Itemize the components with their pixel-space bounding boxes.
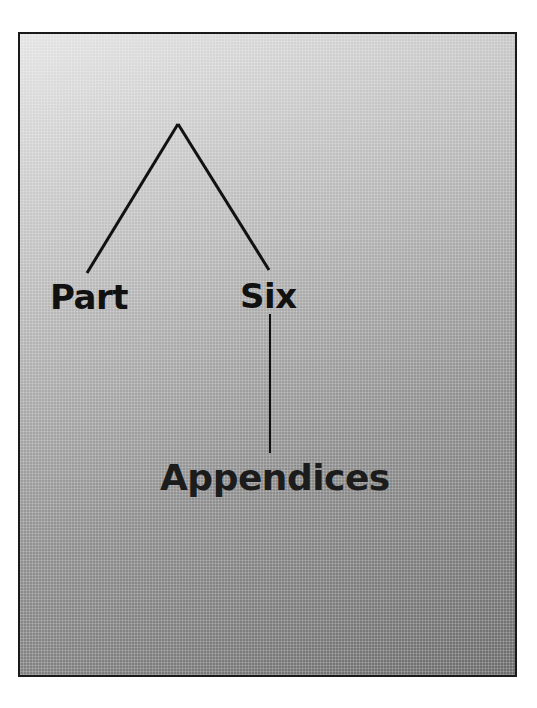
part-label: Part <box>50 280 128 314</box>
appendices-label: Appendices <box>160 460 390 496</box>
right-branch-line <box>178 124 269 270</box>
left-branch-line <box>87 124 178 273</box>
six-label: Six <box>240 279 297 313</box>
tree-diagram-lines <box>0 0 537 708</box>
